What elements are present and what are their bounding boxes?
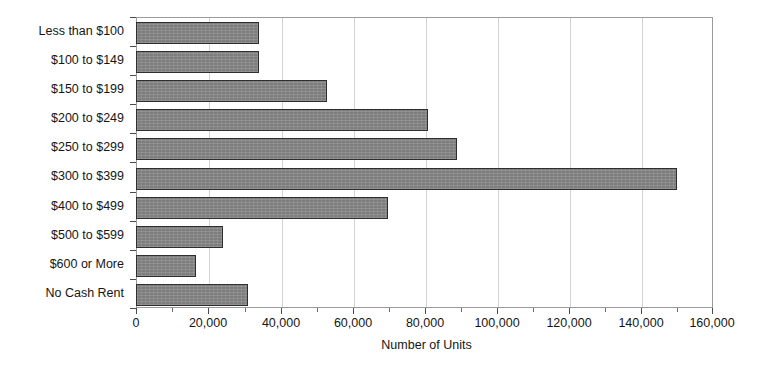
bar-600-or-more [136,255,196,277]
x-axis-tick [641,308,642,314]
y-axis-label-0: Less than $100 [39,23,125,39]
x-axis-tick [712,308,713,314]
x-axis-tick-label-4: 80,000 [406,316,444,331]
x-axis-tick [281,308,282,314]
x-axis-tick-label-6: 120,000 [546,316,591,331]
y-axis-label-6: $400 to $499 [51,198,124,214]
bar-chart: Less than $100 $100 to $149 $150 to $199… [0,0,765,370]
y-axis-label-8: $600 or More [50,256,124,272]
bar-200-to-249 [136,109,428,131]
x-axis-tick-label-1: 20,000 [189,316,227,331]
x-axis-tick-label-3: 60,000 [334,316,372,331]
x-axis-tick [497,308,498,314]
y-axis-label-7: $500 to $599 [51,227,124,243]
x-axis-minor-tick [172,308,173,312]
x-axis-tick-label-5: 100,000 [474,316,519,331]
bar-250-to-299 [136,138,457,160]
bar-400-to-499 [136,197,388,219]
bar-500-to-599 [136,226,223,248]
x-axis-tick [208,308,209,314]
x-axis-tick [569,308,570,314]
y-axis-label-2: $150 to $199 [51,81,124,97]
y-axis-category-labels: Less than $100 $100 to $149 $150 to $199… [0,17,130,308]
bar-no-cash-rent [136,284,248,306]
x-axis-minor-tick [389,308,390,312]
bar-less-than-100 [136,22,259,44]
x-axis-tick-label-7: 140,000 [618,316,663,331]
y-axis-label-5: $300 to $399 [51,168,124,184]
y-axis-label-9: No Cash Rent [45,285,124,301]
y-axis-label-4: $250 to $299 [51,139,124,155]
bar-series [136,17,713,308]
x-axis-title: Number of Units [0,338,765,352]
bar-300-to-399 [136,168,677,190]
x-axis-minor-tick [533,308,534,312]
x-axis-tick [425,308,426,314]
x-axis-tick-label-8: 160,000 [689,316,734,331]
y-axis-label-3: $200 to $249 [51,110,124,126]
x-axis-minor-tick [461,308,462,312]
bar-150-to-199 [136,80,327,102]
y-axis-label-1: $100 to $149 [51,52,124,68]
x-axis-tick [136,308,137,314]
bar-100-to-149 [136,51,259,73]
x-axis-minor-tick [605,308,606,312]
x-axis-title-text: Number of Units [381,338,471,352]
x-axis-minor-tick [677,308,678,312]
x-axis-tick-label-2: 40,000 [262,316,300,331]
x-axis-minor-tick [245,308,246,312]
x-axis-minor-tick [317,308,318,312]
x-axis-tick-label-0: 0 [133,316,140,331]
x-axis-tick [353,308,354,314]
